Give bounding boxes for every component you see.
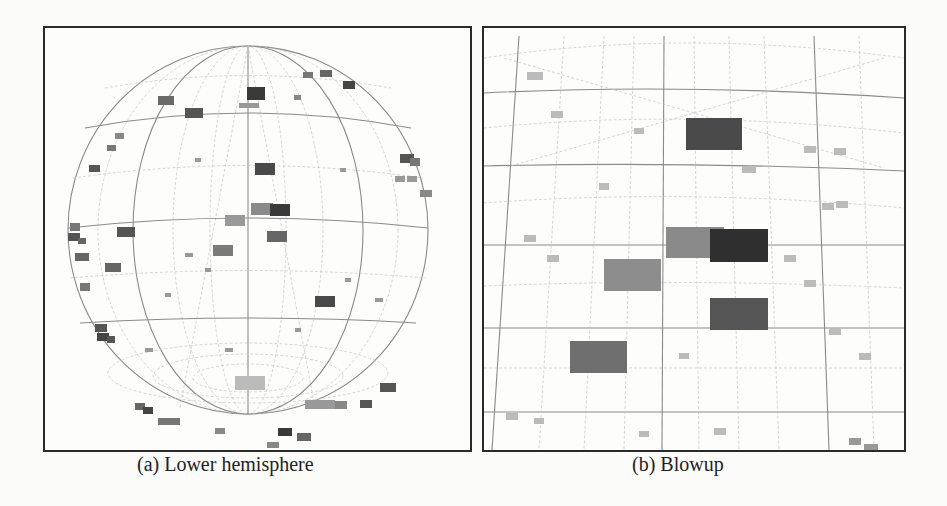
thumbnail-small[interactable] [524,235,536,242]
thumbnail-portrait[interactable] [686,118,742,150]
thumbnail[interactable] [213,245,233,256]
thumbnail[interactable] [251,203,273,215]
thumbnail[interactable] [107,336,115,343]
thumbnail-small[interactable] [634,128,644,134]
thumbnail[interactable] [239,103,259,108]
thumbnail-small[interactable] [714,428,726,435]
thumbnail[interactable] [315,296,335,307]
thumbnail-small[interactable] [822,203,834,210]
thumbnail-small[interactable] [829,328,841,335]
thumbnail-small[interactable] [506,413,518,420]
thumbnail[interactable] [80,283,90,291]
thumbnail[interactable] [158,96,174,105]
thumbnail-small[interactable] [836,201,848,208]
panel-lower-hemisphere [43,26,472,452]
thumbnail-small[interactable] [599,183,609,190]
thumbnail-small[interactable] [527,72,543,80]
thumbnail-small[interactable] [547,255,559,262]
thumbnail-small[interactable] [864,444,878,450]
thumbnail-small[interactable] [849,438,861,445]
thumbnail-small[interactable] [534,418,544,424]
thumbnail[interactable] [297,433,311,441]
thumbnail[interactable] [410,158,420,166]
thumbnail[interactable] [267,442,279,448]
thumbnail-small[interactable] [804,146,816,153]
thumbnail[interactable] [115,133,124,139]
thumbnail-small[interactable] [859,353,871,360]
thumbnail[interactable] [185,108,203,118]
thumbnail[interactable] [395,176,405,182]
thumbnail[interactable] [360,400,372,408]
thumbnail[interactable] [89,165,100,172]
thumbnail-animal[interactable] [604,259,661,291]
thumbnail-small[interactable] [679,353,689,359]
thumbnail[interactable] [70,223,80,231]
thumbnail-building[interactable] [570,341,627,373]
thumbnail[interactable] [195,158,201,162]
thumbnail[interactable] [205,268,211,272]
thumbnail[interactable] [225,348,233,352]
thumbnail[interactable] [145,348,153,352]
thumbnail[interactable] [278,428,292,436]
caption-blowup: (b) Blowup [632,453,724,476]
thumbnail[interactable] [215,428,225,434]
thumbnail[interactable] [107,145,116,151]
thumbnail[interactable] [335,401,347,409]
thumbnail[interactable] [255,163,275,175]
thumbnail[interactable] [420,190,432,197]
thumbnail-group[interactable] [710,298,768,330]
thumbnail-small[interactable] [639,431,649,437]
thumbnail[interactable] [225,215,245,226]
thumbnail[interactable] [340,168,346,172]
caption-lower-hemisphere: (a) Lower hemisphere [137,453,314,476]
thumbnail[interactable] [375,298,383,302]
thumbnail-small[interactable] [742,166,756,173]
meridian-lines [98,46,398,414]
thumbnail-small[interactable] [834,148,846,155]
thumbnail-small[interactable] [804,280,816,287]
thumbnail[interactable] [235,376,265,390]
blowup-visualization [484,28,904,450]
thumbnail[interactable] [95,324,107,332]
thumbnail[interactable] [105,263,121,272]
thumbnail[interactable] [75,253,89,261]
thumbnail[interactable] [295,328,301,332]
thumbnail[interactable] [143,407,153,414]
thumbnail[interactable] [267,231,287,242]
thumbnail-dark[interactable] [710,229,768,262]
thumbnail[interactable] [320,70,332,77]
thumbnail[interactable] [78,238,86,244]
thumbnail-small[interactable] [784,255,796,262]
thumbnail[interactable] [294,95,301,100]
sphere-visualization [45,28,470,450]
thumbnail[interactable] [380,383,396,392]
thumbnail[interactable] [343,81,355,89]
thumbnail[interactable] [165,293,171,297]
thumbnail[interactable] [117,227,135,237]
thumbnail[interactable] [303,72,313,78]
image-thumbnails [68,70,432,448]
thumbnail[interactable] [247,87,265,100]
thumbnail[interactable] [345,278,351,282]
thumbnail[interactable] [185,253,193,257]
panel-blowup [482,26,906,452]
thumbnail[interactable] [158,418,180,425]
thumbnail[interactable] [305,400,335,409]
thumbnail-small[interactable] [551,111,563,118]
thumbnail[interactable] [270,204,290,216]
thumbnail[interactable] [407,176,417,182]
